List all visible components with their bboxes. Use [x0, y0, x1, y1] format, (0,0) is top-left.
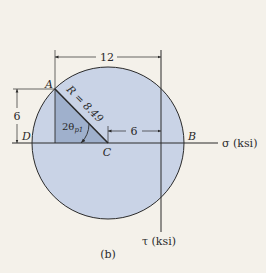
dim-center-label: 6 [131, 125, 138, 138]
angle-subscript: p1 [74, 126, 83, 134]
dim-top-label: 12 [100, 51, 114, 64]
figure-caption: (b) [100, 248, 116, 261]
point-d-label: D [21, 130, 31, 143]
point-b-label: B [187, 130, 196, 143]
mohrs-circle-figure: 12 6 6 A D C B R = 8.49 2θp1 σ (ksi) τ (… [0, 0, 266, 273]
point-c-label: C [103, 146, 112, 159]
point-a-label: A [44, 78, 53, 91]
dim-left-label: 6 [14, 110, 21, 123]
tau-axis-label: τ (ksi) [142, 235, 176, 248]
sigma-axis-label: σ (ksi) [222, 137, 257, 150]
angle-main: 2θ [62, 121, 74, 132]
